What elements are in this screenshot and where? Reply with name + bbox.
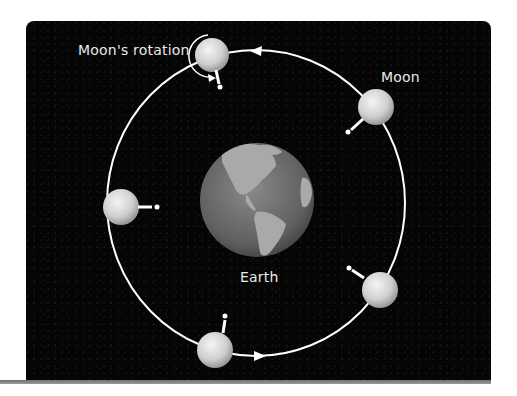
- orbit-arrow-right-icon: [254, 351, 266, 361]
- moon-left: [103, 189, 160, 225]
- moon-rotation-label: Moon's rotation: [78, 43, 190, 57]
- orbit-arrow-left-icon: [250, 46, 262, 56]
- earth-globe: [200, 143, 314, 257]
- moon-bottom: [197, 314, 233, 369]
- moon-lower-right: [347, 266, 399, 309]
- moon-label: Moon: [381, 70, 420, 84]
- moon-orbit-diagram: [0, 0, 517, 396]
- moon-top: [195, 38, 229, 90]
- earth-label: Earth: [240, 270, 279, 284]
- rotation-arrow-icon: [208, 74, 216, 82]
